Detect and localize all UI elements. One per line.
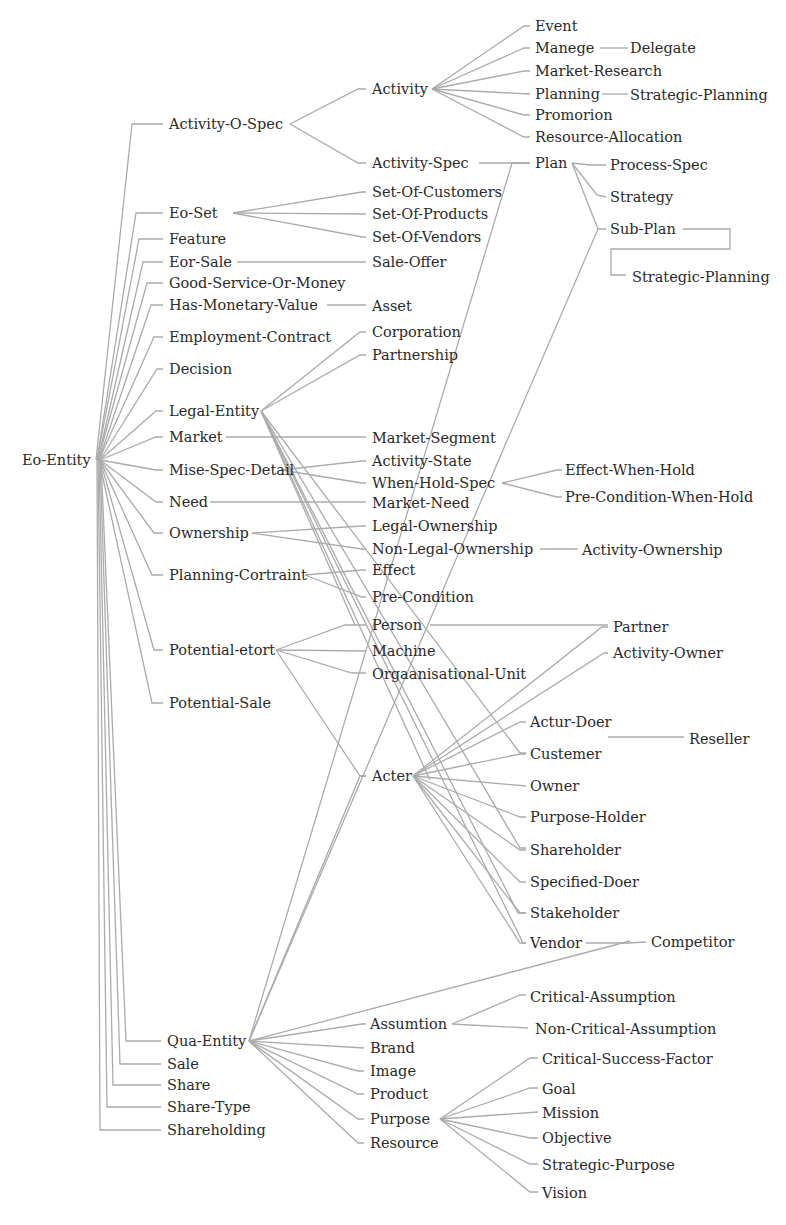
node-qua-entity[interactable]: Qua-Entity xyxy=(167,1033,246,1049)
node-asset[interactable]: Asset xyxy=(372,298,412,314)
node-effect[interactable]: Effect xyxy=(372,562,415,578)
node-ownership[interactable]: Ownership xyxy=(169,525,249,541)
node-sale[interactable]: Sale xyxy=(167,1056,199,1072)
node-shareholding[interactable]: Shareholding xyxy=(167,1122,266,1138)
node-potential-etort[interactable]: Potential-etort xyxy=(169,642,275,658)
node-activity-ownership[interactable]: Activity-Ownership xyxy=(582,542,723,558)
node-custemer[interactable]: Custemer xyxy=(530,746,602,762)
node-purpose-holder[interactable]: Purpose-Holder xyxy=(530,809,646,825)
node-event[interactable]: Event xyxy=(535,18,578,34)
node-when-hold-spec[interactable]: When-Hold-Spec xyxy=(372,475,495,491)
node-has-monetary-value[interactable]: Has-Monetary-Value xyxy=(169,297,318,313)
node-corporation[interactable]: Corporation xyxy=(372,324,461,340)
node-planning[interactable]: Planning xyxy=(535,86,600,102)
node-person[interactable]: Person xyxy=(372,617,422,633)
node-manege[interactable]: Manege xyxy=(535,40,594,56)
node-process-spec[interactable]: Process-Spec xyxy=(610,157,708,173)
node-acter[interactable]: Acter xyxy=(372,768,412,784)
node-machine[interactable]: Machine xyxy=(372,643,436,659)
node-mise-spec-detail[interactable]: Mise-Spec-Detail xyxy=(169,462,294,478)
node-activity-owner[interactable]: Activity-Owner xyxy=(613,645,723,661)
node-vendor[interactable]: Vendor xyxy=(530,935,582,951)
node-legal-entity[interactable]: Legal-Entity xyxy=(169,403,259,419)
node-strategy[interactable]: Strategy xyxy=(610,189,673,205)
node-objective[interactable]: Objective xyxy=(542,1130,612,1146)
node-partnership[interactable]: Partnership xyxy=(372,347,458,363)
node-feature[interactable]: Feature xyxy=(169,231,226,247)
node-mission[interactable]: Mission xyxy=(542,1105,599,1121)
node-potential-sale[interactable]: Potential-Sale xyxy=(169,695,271,711)
node-strategic-planning[interactable]: Strategic-Planning xyxy=(632,269,770,285)
node-market-segment[interactable]: Market-Segment xyxy=(372,430,496,446)
node-effect-when-hold[interactable]: Effect-When-Hold xyxy=(565,462,695,478)
node-activity[interactable]: Activity xyxy=(372,81,428,97)
node-promorion[interactable]: Promorion xyxy=(535,107,613,123)
node-employment-contract[interactable]: Employment-Contract xyxy=(169,329,331,345)
node-non-critical-assumption[interactable]: Non-Critical-Assumption xyxy=(535,1021,716,1037)
node-activity-spec[interactable]: Activity-Spec xyxy=(372,155,469,171)
node-legal-ownership[interactable]: Legal-Ownership xyxy=(372,518,498,534)
node-strategic-planning[interactable]: Strategic-Planning xyxy=(630,87,768,103)
node-good-service-or-money[interactable]: Good-Service-Or-Money xyxy=(169,275,346,291)
node-goal[interactable]: Goal xyxy=(542,1081,576,1097)
node-need[interactable]: Need xyxy=(169,494,208,510)
node-plan[interactable]: Plan xyxy=(535,155,567,171)
node-activity-state[interactable]: Activity-State xyxy=(372,453,472,469)
node-market[interactable]: Market xyxy=(169,429,223,445)
node-set-of-products[interactable]: Set-Of-Products xyxy=(372,206,488,222)
node-share-type[interactable]: Share-Type xyxy=(167,1099,251,1115)
node-shareholder[interactable]: Shareholder xyxy=(530,842,621,858)
node-share[interactable]: Share xyxy=(167,1077,210,1093)
node-orgaanisational-unit[interactable]: Orgaanisational-Unit xyxy=(372,666,526,682)
node-actur-doer[interactable]: Actur-Doer xyxy=(530,714,611,730)
node-eo-set[interactable]: Eo-Set xyxy=(169,205,218,221)
node-product[interactable]: Product xyxy=(370,1086,428,1102)
node-purpose[interactable]: Purpose xyxy=(370,1111,430,1127)
node-vision[interactable]: Vision xyxy=(542,1185,587,1201)
node-resource[interactable]: Resource xyxy=(370,1135,439,1151)
node-owner[interactable]: Owner xyxy=(530,778,579,794)
ontology-diagram: Eo-Entity Activity-O-Spec Eo-Set Feature… xyxy=(0,0,786,1225)
node-delegate[interactable]: Delegate xyxy=(630,40,696,56)
node-critical-assumption[interactable]: Critical-Assumption xyxy=(530,989,676,1005)
node-strategic-purpose[interactable]: Strategic-Purpose xyxy=(542,1157,675,1173)
node-stakeholder[interactable]: Stakeholder xyxy=(530,905,619,921)
node-assumtion[interactable]: Assumtion xyxy=(370,1016,447,1032)
node-image[interactable]: Image xyxy=(370,1063,416,1079)
node-pre-condition-when-hold[interactable]: Pre-Condition-When-Hold xyxy=(565,489,753,505)
node-partner[interactable]: Partner xyxy=(613,619,668,635)
node-pre-condition[interactable]: Pre-Condition xyxy=(372,589,474,605)
node-resource-allocation[interactable]: Resource-Allocation xyxy=(535,129,682,145)
node-eo-entity[interactable]: Eo-Entity xyxy=(22,452,91,468)
node-activity-o-spec[interactable]: Activity-O-Spec xyxy=(169,116,283,132)
node-set-of-customers[interactable]: Set-Of-Customers xyxy=(372,184,502,200)
node-set-of-vendors[interactable]: Set-Of-Vendors xyxy=(372,229,481,245)
node-reseller[interactable]: Reseller xyxy=(689,731,749,747)
node-decision[interactable]: Decision xyxy=(169,361,232,377)
node-specified-doer[interactable]: Specified-Doer xyxy=(530,874,639,890)
node-sale-offer[interactable]: Sale-Offer xyxy=(372,254,446,270)
node-market-need[interactable]: Market-Need xyxy=(372,495,470,511)
node-brand[interactable]: Brand xyxy=(370,1040,415,1056)
node-planning-cortraint[interactable]: Planning-Cortraint xyxy=(169,567,307,583)
node-critical-success-factor[interactable]: Critical-Success-Factor xyxy=(542,1051,713,1067)
node-eor-sale[interactable]: Eor-Sale xyxy=(169,254,232,270)
node-sub-plan[interactable]: Sub-Plan xyxy=(610,221,676,237)
node-market-research[interactable]: Market-Research xyxy=(535,63,662,79)
node-non-legal-ownership[interactable]: Non-Legal-Ownership xyxy=(372,541,533,557)
node-competitor[interactable]: Competitor xyxy=(651,934,734,950)
